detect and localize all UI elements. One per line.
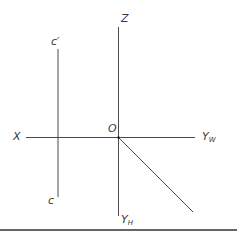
yw-sub: W	[209, 136, 216, 144]
x-axis-label: X	[13, 131, 21, 142]
yh-axis-label: YH	[121, 214, 133, 227]
z-axis-label: Z	[121, 13, 129, 24]
yw-main: Y	[202, 130, 209, 143]
yh-sub: H	[128, 219, 133, 227]
projection-diagram	[0, 0, 237, 234]
origin-label: O	[108, 123, 117, 134]
c-prime-label: c′	[51, 36, 60, 47]
origin-point	[117, 136, 119, 138]
yw-axis-label: YW	[202, 131, 216, 144]
diagonal-45-line	[119, 138, 194, 213]
c-label: c	[48, 195, 54, 206]
yh-main: Y	[121, 213, 128, 226]
